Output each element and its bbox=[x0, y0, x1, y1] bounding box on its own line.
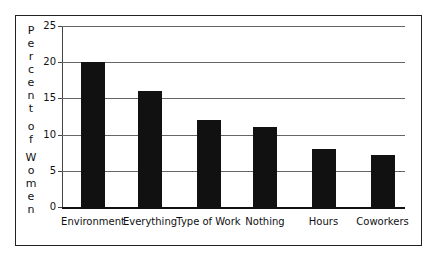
gridline bbox=[62, 98, 405, 99]
y-axis-label-letter: r bbox=[29, 50, 34, 63]
y-tick-label: 25 bbox=[36, 21, 56, 31]
y-tick bbox=[58, 135, 62, 136]
bar-nothing bbox=[253, 127, 277, 207]
gridline bbox=[62, 135, 405, 136]
y-tick-label: 5 bbox=[36, 166, 56, 176]
y-axis-label-letter: m bbox=[26, 177, 37, 190]
y-axis-label-letter: t bbox=[29, 102, 33, 115]
x-tick-label: Nothing bbox=[245, 216, 284, 227]
y-tick-label: 20 bbox=[36, 57, 56, 67]
y-axis-label-letter: o bbox=[28, 164, 35, 177]
gridline bbox=[62, 26, 405, 27]
y-axis-label-letter: W bbox=[26, 151, 37, 164]
y-axis-label-letter: n bbox=[28, 89, 35, 102]
bar-environment bbox=[81, 62, 105, 207]
gridline bbox=[62, 62, 405, 63]
y-tick bbox=[58, 207, 62, 208]
bar-type-of-work bbox=[197, 120, 221, 207]
y-axis-label-letter: c bbox=[28, 63, 34, 76]
gridline bbox=[62, 207, 405, 209]
y-axis-label-letter: e bbox=[28, 37, 35, 50]
y-axis-label-letter: e bbox=[28, 76, 35, 89]
x-tick-label: Type of Work bbox=[176, 216, 240, 227]
x-tick-label: Hours bbox=[309, 216, 338, 227]
x-tick-label: Everything bbox=[123, 216, 177, 227]
y-tick bbox=[58, 26, 62, 27]
y-tick bbox=[58, 98, 62, 99]
y-tick-label: 10 bbox=[36, 130, 56, 140]
y-tick-label: 15 bbox=[36, 93, 56, 103]
y-tick-label: 0 bbox=[36, 202, 56, 212]
gridline bbox=[62, 171, 405, 172]
x-tick-label: Coworkers bbox=[356, 216, 408, 227]
y-axis-label-letter: f bbox=[29, 133, 33, 146]
y-axis-label: PercentofWomen bbox=[24, 24, 38, 216]
y-axis-label-letter: n bbox=[28, 203, 35, 216]
y-axis-label-letter: e bbox=[28, 190, 35, 203]
y-axis-label-letter: o bbox=[28, 120, 35, 133]
y-tick bbox=[58, 171, 62, 172]
bar-hours bbox=[312, 149, 336, 207]
y-axis-label-letter: P bbox=[28, 24, 35, 37]
bar-everything bbox=[138, 91, 162, 207]
y-tick bbox=[58, 62, 62, 63]
y-axis-line bbox=[62, 26, 63, 207]
bar-coworkers bbox=[371, 155, 395, 207]
x-tick-label: Environment bbox=[61, 216, 125, 227]
plot-area bbox=[62, 26, 405, 207]
